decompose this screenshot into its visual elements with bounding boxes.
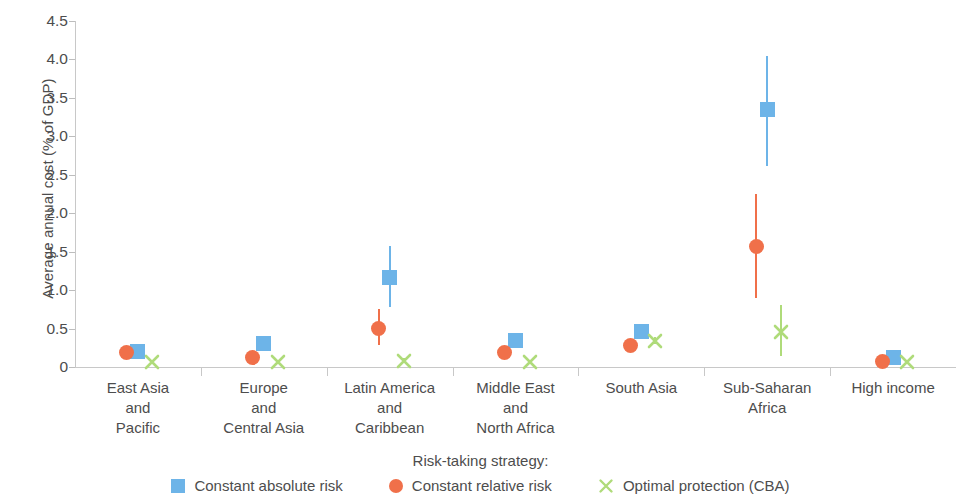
y-tick-label: 2.5 bbox=[28, 166, 68, 184]
data-point-marker bbox=[256, 336, 271, 351]
y-tick-label: 2.0 bbox=[28, 204, 68, 222]
x-category-label: Latin America and Caribbean bbox=[327, 378, 453, 438]
chart-figure: Average annual cost (% of GDP) 00.51.01.… bbox=[0, 0, 961, 497]
x-category-divider bbox=[830, 368, 831, 376]
x-category-label: Middle East and North Africa bbox=[453, 378, 579, 438]
x-category-label: East Asia and Pacific bbox=[75, 378, 201, 438]
x-category-label: Sub-Saharan Africa bbox=[704, 378, 830, 418]
legend-item-label: Optimal protection (CBA) bbox=[623, 477, 790, 494]
legend-square-icon bbox=[171, 479, 185, 493]
y-tick-label: 3.5 bbox=[28, 89, 68, 107]
data-point-marker bbox=[623, 338, 638, 353]
y-tick-label: 4.0 bbox=[28, 50, 68, 68]
y-tick-label: 4.5 bbox=[28, 12, 68, 30]
legend-item-label: Constant relative risk bbox=[412, 477, 552, 494]
legend-title: Risk-taking strategy: bbox=[0, 452, 961, 469]
y-tick-mark bbox=[69, 59, 75, 60]
legend-x-icon bbox=[598, 478, 614, 494]
data-point-marker bbox=[508, 333, 523, 348]
y-tick-mark bbox=[69, 136, 75, 137]
y-tick-mark bbox=[69, 329, 75, 330]
y-tick-mark bbox=[69, 21, 75, 22]
x-category-label: High income bbox=[830, 378, 956, 398]
y-tick-mark bbox=[69, 290, 75, 291]
data-point-marker bbox=[143, 353, 161, 371]
y-tick-mark bbox=[69, 252, 75, 253]
y-tick-mark bbox=[69, 367, 75, 368]
legend-item[interactable]: Constant relative risk bbox=[389, 477, 552, 494]
legend-item[interactable]: Constant absolute risk bbox=[171, 477, 342, 494]
y-tick-label: 1.0 bbox=[28, 281, 68, 299]
y-tick-mark bbox=[69, 213, 75, 214]
data-point-marker bbox=[760, 102, 775, 117]
data-point-marker bbox=[395, 352, 413, 370]
x-category-label: Europe and Central Asia bbox=[201, 378, 327, 438]
legend-item[interactable]: Optimal protection (CBA) bbox=[598, 477, 790, 494]
x-category-label: South Asia bbox=[578, 378, 704, 398]
x-category-divider bbox=[201, 368, 202, 376]
y-tick-label: 0.5 bbox=[28, 320, 68, 338]
data-point-marker bbox=[269, 353, 287, 371]
legend-item-label: Constant absolute risk bbox=[194, 477, 342, 494]
data-point-marker bbox=[371, 321, 386, 336]
data-point-marker bbox=[521, 353, 539, 371]
x-axis-line bbox=[75, 367, 956, 368]
y-tick-label: 3.0 bbox=[28, 127, 68, 145]
y-tick-label: 0 bbox=[28, 358, 68, 376]
legend: Constant absolute riskConstant relative … bbox=[0, 477, 961, 494]
data-point-marker bbox=[245, 350, 260, 365]
y-axis-line bbox=[75, 21, 76, 367]
x-category-divider bbox=[578, 368, 579, 376]
data-point-marker bbox=[749, 239, 764, 254]
data-point-marker bbox=[898, 353, 916, 371]
y-tick-mark bbox=[69, 175, 75, 176]
x-category-divider bbox=[453, 368, 454, 376]
x-category-divider bbox=[704, 368, 705, 376]
data-point-marker bbox=[382, 270, 397, 285]
x-category-divider bbox=[327, 368, 328, 376]
y-tick-mark bbox=[69, 98, 75, 99]
legend-circle-icon bbox=[389, 479, 403, 493]
data-point-marker bbox=[497, 345, 512, 360]
data-point-marker bbox=[875, 354, 890, 369]
data-point-marker bbox=[772, 323, 790, 341]
y-tick-label: 1.5 bbox=[28, 243, 68, 261]
data-point-marker bbox=[646, 332, 664, 350]
